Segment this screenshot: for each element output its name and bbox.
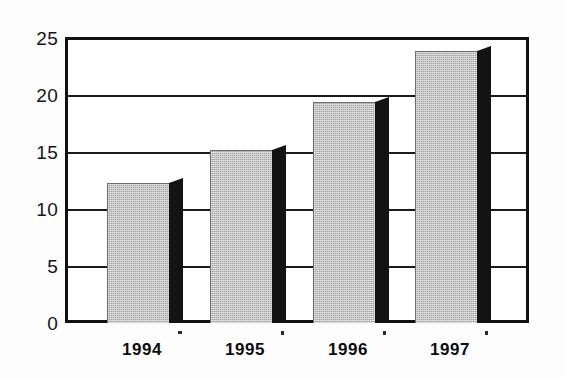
x-tick-label-1995: 1995 [205,340,285,360]
bar-side-face [477,51,491,323]
y-tick-label: 15 [2,143,58,162]
bar-1994 [107,178,183,323]
y-tick-label: 5 [2,257,58,276]
bar-side-face [375,102,389,323]
bar-1997 [415,46,491,323]
y-tick-label: 0 [2,314,58,333]
bar-top-face [169,178,183,183]
scan-artifact [485,331,488,335]
scan-artifact [178,331,182,334]
bar-front-face [313,102,375,323]
bar-top-face [272,145,286,150]
y-tick-label: 10 [2,200,58,219]
x-axis: 1994 1995 1996 1997 [0,340,565,370]
bar-top-face [375,97,389,102]
bar-1995 [210,145,286,323]
scan-artifact [383,331,386,335]
y-axis: 25 20 15 10 5 0 [0,0,58,379]
scan-artifact [281,331,284,335]
x-tick-label-1994: 1994 [102,340,182,360]
x-tick-label-1996: 1996 [308,340,388,360]
y-tick-label: 20 [2,86,58,105]
bar-side-face [169,183,183,323]
chart-image: 25 20 15 10 5 0 1994 1995 1996 1997 [0,0,565,379]
y-tick-label: 25 [2,29,58,48]
bar-1996 [313,97,389,323]
bar-front-face [415,51,477,323]
bar-front-face [210,150,272,323]
bar-top-face [477,46,491,51]
bar-front-face [107,183,169,323]
bar-side-face [272,150,286,323]
x-tick-label-1997: 1997 [410,340,490,360]
bar-series [65,37,529,323]
